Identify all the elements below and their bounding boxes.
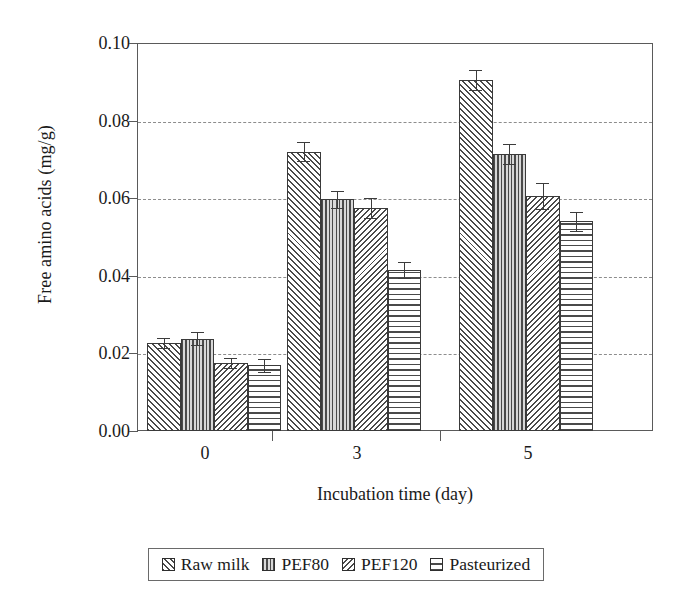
error-bar-raw-milk-day-3 bbox=[304, 142, 305, 161]
error-bar-pef120-day-5 bbox=[543, 183, 544, 209]
y-tick-label-0: 0.00 bbox=[60, 421, 130, 442]
legend-label-raw-milk: Raw milk bbox=[181, 556, 250, 574]
error-cap-lower bbox=[258, 372, 271, 373]
error-bar-pasteurized-day-3 bbox=[404, 262, 405, 278]
error-cap-lower bbox=[224, 368, 237, 369]
legend-swatch-icon-pef120 bbox=[342, 558, 355, 571]
error-cap-upper bbox=[157, 338, 170, 339]
error-bar-pef120-day-0 bbox=[231, 358, 232, 368]
error-cap-lower bbox=[503, 164, 516, 165]
legend-swatch-icon-raw-milk bbox=[162, 558, 175, 571]
bar-raw-milk-day-0 bbox=[147, 343, 181, 431]
error-cap-lower bbox=[191, 345, 204, 346]
y-tick-label-5: 0.10 bbox=[60, 33, 130, 54]
bar-pef120-day-0 bbox=[214, 363, 248, 431]
x-tick-label-0: 0 bbox=[175, 443, 235, 464]
error-cap-upper bbox=[258, 359, 271, 360]
legend-item-pasteurized: Pasteurized bbox=[430, 556, 530, 574]
legend-item-raw-milk: Raw milk bbox=[162, 556, 250, 574]
error-bar-pef80-day-5 bbox=[509, 144, 510, 164]
y-tick-label-4: 0.08 bbox=[60, 110, 130, 131]
bar-pasteurized-day-5 bbox=[560, 221, 594, 431]
error-cap-upper bbox=[469, 70, 482, 71]
error-cap-upper bbox=[364, 198, 377, 199]
error-bar-pasteurized-day-0 bbox=[264, 359, 265, 371]
error-cap-upper bbox=[570, 212, 583, 213]
bar-pasteurized-day-3 bbox=[388, 270, 422, 431]
error-bar-pef120-day-3 bbox=[371, 198, 372, 218]
bar-pef80-day-5 bbox=[493, 154, 527, 431]
legend-item-pef120: PEF120 bbox=[342, 556, 417, 574]
x-tick-label-1: 3 bbox=[327, 443, 387, 464]
bar-pef80-day-0 bbox=[181, 339, 215, 431]
bar-pef120-day-3 bbox=[354, 208, 388, 431]
y-tick-label-2: 0.04 bbox=[60, 265, 130, 286]
error-cap-lower bbox=[398, 278, 411, 279]
error-cap-upper bbox=[503, 144, 516, 145]
legend-swatch-icon-pef80 bbox=[262, 558, 275, 571]
error-bar-pasteurized-day-5 bbox=[576, 212, 577, 231]
error-cap-upper bbox=[331, 191, 344, 192]
error-cap-lower bbox=[297, 161, 310, 162]
y-tick-label-3: 0.06 bbox=[60, 188, 130, 209]
error-bar-raw-milk-day-0 bbox=[164, 338, 165, 348]
error-cap-upper bbox=[224, 358, 237, 359]
error-cap-upper bbox=[398, 262, 411, 263]
error-bar-pef80-day-0 bbox=[197, 332, 198, 344]
legend-label-pef120: PEF120 bbox=[361, 556, 417, 574]
x-tick-mark-sep-2 bbox=[440, 431, 441, 441]
error-cap-lower bbox=[157, 348, 170, 349]
x-tick-mark-sep-1 bbox=[272, 431, 273, 441]
legend-label-pasteurized: Pasteurized bbox=[449, 556, 530, 574]
error-cap-upper bbox=[297, 142, 310, 143]
chart-legend: Raw milk PEF80 PEF120 Pasteurized bbox=[148, 548, 544, 581]
error-cap-lower bbox=[536, 209, 549, 210]
y-tick-mark-0 bbox=[129, 431, 138, 432]
error-cap-upper bbox=[191, 332, 204, 333]
bar-pef120-day-5 bbox=[526, 196, 560, 431]
y-tick-label-1: 0.02 bbox=[60, 343, 130, 364]
error-cap-lower bbox=[331, 208, 344, 209]
error-bar-raw-milk-day-5 bbox=[476, 70, 477, 90]
error-cap-lower bbox=[364, 218, 377, 219]
chart-figure: Free amino acids (mg/g) 0.00 0.02 0.04 0… bbox=[0, 0, 679, 605]
legend-swatch-icon-pasteurized bbox=[430, 558, 443, 571]
error-bar-pef80-day-3 bbox=[337, 191, 338, 208]
bar-raw-milk-day-3 bbox=[287, 152, 321, 431]
bar-pasteurized-day-0 bbox=[248, 365, 282, 431]
bar-pef80-day-3 bbox=[321, 199, 355, 431]
error-cap-lower bbox=[469, 90, 482, 91]
error-cap-lower bbox=[570, 231, 583, 232]
bars-layer bbox=[137, 43, 653, 431]
y-axis-title: Free amino acids (mg/g) bbox=[35, 75, 56, 355]
x-axis-title: Incubation time (day) bbox=[137, 484, 653, 505]
error-cap-upper bbox=[536, 183, 549, 184]
legend-item-pef80: PEF80 bbox=[262, 556, 329, 574]
legend-label-pef80: PEF80 bbox=[281, 556, 329, 574]
x-tick-label-2: 5 bbox=[498, 443, 558, 464]
bar-raw-milk-day-5 bbox=[459, 80, 493, 431]
